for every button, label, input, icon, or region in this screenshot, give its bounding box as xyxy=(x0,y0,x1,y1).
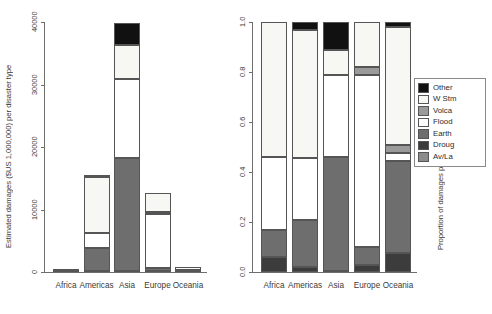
bar-segment xyxy=(292,30,318,159)
bar-segment xyxy=(114,45,140,79)
bar-segment xyxy=(261,157,287,230)
x-axis-category-label-oceania: Oceania xyxy=(372,281,424,290)
legend-swatch-icon xyxy=(418,129,429,139)
bar-segment xyxy=(114,23,140,45)
legend-swatch-icon xyxy=(418,95,429,105)
bar-segment xyxy=(385,22,411,27)
bar-segment xyxy=(385,253,411,272)
bar-segment xyxy=(385,153,411,161)
y-axis-tick-label: 0 xyxy=(30,254,39,290)
y-axis-tick-label: 1.0 xyxy=(238,4,247,40)
bar-segment xyxy=(292,220,318,268)
legend-label: Earth xyxy=(433,130,452,138)
stacked-bar xyxy=(84,22,110,272)
bar-segment xyxy=(323,75,349,158)
bar-segment xyxy=(385,27,411,145)
bar-segment xyxy=(261,230,287,258)
y-axis-tick xyxy=(249,22,252,23)
y-axis-tick-label: 0.0 xyxy=(238,254,247,290)
y-axis-tick xyxy=(41,147,44,148)
y-axis-line xyxy=(44,22,45,272)
bar-segment xyxy=(261,257,287,272)
bar-segment xyxy=(145,268,171,271)
legend-label: Flood xyxy=(433,118,453,126)
legend-label: W Stm xyxy=(433,95,456,103)
y-axis-tick xyxy=(249,72,252,73)
legend-item-earth: Earth xyxy=(418,128,482,140)
stacked-bar xyxy=(354,22,380,272)
bar-segment xyxy=(385,145,411,154)
legend-item-other: Other xyxy=(418,82,482,94)
bar-segment xyxy=(114,79,140,158)
bar-segment xyxy=(354,75,380,248)
legend-label: Av/La xyxy=(433,153,453,161)
x-axis-line xyxy=(252,272,417,273)
y-axis-tick xyxy=(41,210,44,211)
legend-item-w-stm: W Stm xyxy=(418,94,482,106)
stacked-bar xyxy=(261,22,287,272)
legend-item-droug: Droug xyxy=(418,140,482,152)
bar-segment xyxy=(114,158,140,271)
bar-segment xyxy=(175,267,201,271)
y-axis-label-absolute: Estimated damages ($US 1,000,000) per di… xyxy=(4,48,13,248)
stacked-bar xyxy=(292,22,318,272)
legend-swatch-icon xyxy=(418,118,429,128)
bar-segment xyxy=(84,248,110,271)
bar-segment xyxy=(145,214,171,268)
stacked-bar xyxy=(53,22,79,272)
y-axis-line xyxy=(252,22,253,272)
legend-item-av-la: Av/La xyxy=(418,151,482,163)
bar-segment xyxy=(385,161,411,254)
y-axis-tick xyxy=(41,22,44,23)
y-axis-tick-label: 30000 xyxy=(30,67,39,103)
legend-label: Droug xyxy=(433,141,454,149)
y-axis-tick-label: 0.2 xyxy=(238,204,247,240)
y-axis-tick-label: 20000 xyxy=(30,129,39,165)
legend-swatch-icon xyxy=(418,106,429,116)
bar-segment xyxy=(354,247,380,265)
bar-segment xyxy=(323,50,349,75)
figure-canvas: Estimated damages ($US 1,000,000) per di… xyxy=(0,0,492,314)
bar-segment xyxy=(354,265,380,273)
absolute-damages-chart: Estimated damages ($US 1,000,000) per di… xyxy=(0,0,228,314)
y-axis-tick xyxy=(41,85,44,86)
x-axis-category-label-oceania: Oceania xyxy=(162,281,214,290)
y-axis-tick xyxy=(249,222,252,223)
bar-segment xyxy=(84,175,110,177)
legend-label: Volca xyxy=(433,107,452,115)
y-axis-tick-label: 10000 xyxy=(30,192,39,228)
y-axis-tick xyxy=(249,122,252,123)
y-axis-tick-label: 0.8 xyxy=(238,54,247,90)
bar-segment xyxy=(261,22,287,157)
bar-segment xyxy=(354,22,380,67)
bar-segment xyxy=(323,157,349,271)
legend-swatch-icon xyxy=(418,141,429,151)
bar-segment xyxy=(84,177,110,233)
x-axis-line xyxy=(44,272,207,273)
legend-swatch-icon xyxy=(418,83,429,93)
legend-item-flood: Flood xyxy=(418,117,482,129)
legend-label: Other xyxy=(433,84,453,92)
legend-swatch-icon xyxy=(418,152,429,162)
y-axis-tick-label: 40000 xyxy=(30,4,39,40)
stacked-bar xyxy=(385,22,411,272)
bar-segment xyxy=(84,233,110,249)
bar-segment xyxy=(323,22,349,50)
bar-segment xyxy=(292,267,318,272)
bar-segment xyxy=(292,22,318,30)
legend: OtherW StmVolcaFloodEarthDrougAv/La xyxy=(414,78,486,167)
y-axis-tick-label: 0.4 xyxy=(238,154,247,190)
stacked-bar xyxy=(114,22,140,272)
bar-segment xyxy=(354,67,380,75)
stacked-bar xyxy=(145,22,171,272)
y-axis-tick xyxy=(249,172,252,173)
bar-segment xyxy=(145,193,171,212)
stacked-bar xyxy=(323,22,349,272)
stacked-bar xyxy=(175,22,201,272)
y-axis-tick-label: 0.6 xyxy=(238,104,247,140)
legend-item-volca: Volca xyxy=(418,105,482,117)
bar-segment xyxy=(292,158,318,219)
bar-segment xyxy=(53,269,79,271)
